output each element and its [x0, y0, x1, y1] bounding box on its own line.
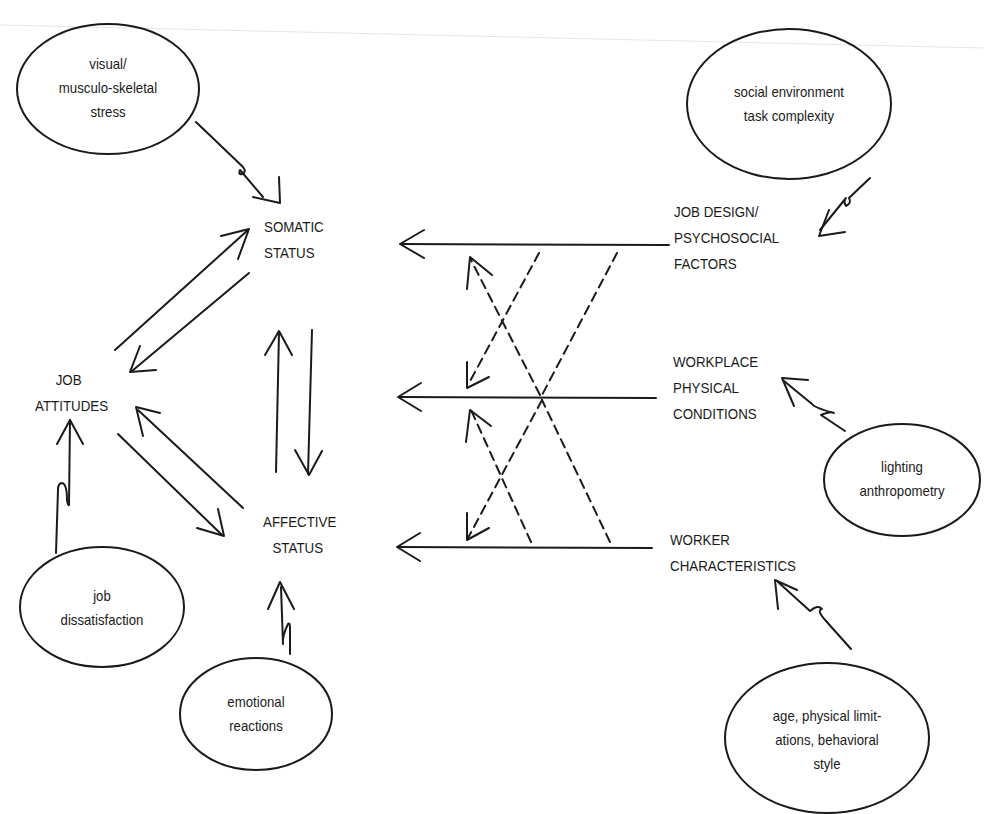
zigzag-arrow-dissatisfaction-to-attitudes: [56, 420, 83, 553]
dashed-arrowheads: [466, 257, 492, 540]
text-lighting: lighting anthropometry: [833, 455, 970, 503]
diagram-canvas: SOMATIC STATUS JOB ATTITUDES AFFECTIVE S…: [0, 0, 984, 814]
dashed-arrow-worker-to-attitudes: [471, 410, 531, 542]
social-line-1: social environment: [699, 80, 879, 104]
somatic-line-1: SOMATIC: [264, 214, 324, 240]
age-line-2: ations, behavioral: [737, 728, 917, 752]
arrow-somatic-to-attitudes: [130, 273, 249, 372]
arrow-attitudes-to-affective: [118, 434, 224, 536]
workplace-line-3: CONDITIONS: [673, 401, 758, 427]
dissatisfaction-line-1: job: [30, 584, 174, 608]
worker-line-1: WORKER: [670, 527, 796, 553]
node-workplace: WORKPLACE PHYSICAL CONDITIONS: [673, 349, 758, 427]
arrow-workplace-to-attitudes: [398, 383, 656, 411]
zigzag-arrow-age-to-worker: [775, 580, 851, 649]
social-line-2: task complexity: [699, 104, 879, 128]
dashed-line-worker-to-somatic: [542, 400, 610, 542]
jobdesign-line-2: PSYCHOSOCIAL: [674, 225, 779, 251]
emotional-line-1: emotional: [189, 690, 323, 714]
age-line-3: style: [737, 752, 917, 776]
visual-line-2: musculo-skeletal: [28, 76, 188, 100]
somatic-line-2: STATUS: [264, 240, 324, 266]
workplace-line-2: PHYSICAL: [673, 375, 758, 401]
jobdesign-line-3: FACTORS: [674, 251, 779, 277]
arrow-affective-to-attitudes: [136, 407, 243, 508]
node-affective-status: AFFECTIVE STATUS: [263, 509, 336, 561]
arrow-worker-to-affective: [397, 533, 652, 561]
dashed-arrow-workplace-to-somatic: [470, 258, 540, 395]
emotional-line-2: reactions: [189, 714, 323, 738]
dashed-arrow-workplace-to-affective: [468, 400, 542, 538]
jobdesign-line-1: JOB DESIGN/: [674, 199, 779, 225]
node-worker: WORKER CHARACTERISTICS: [670, 527, 796, 579]
node-somatic-status: SOMATIC STATUS: [264, 214, 324, 266]
text-age-limitations: age, physical limit- ations, behavioral …: [737, 704, 917, 776]
visual-line-3: stress: [28, 100, 188, 124]
arrow-somatic-to-affective: [295, 330, 322, 475]
text-job-dissatisfaction: job dissatisfaction: [30, 584, 174, 632]
visual-line-1: visual/: [28, 52, 188, 76]
dissatisfaction-line-2: dissatisfaction: [30, 608, 174, 632]
zigzag-arrow-lighting-to-workplace: [782, 378, 845, 431]
zigzag-arrow-emotional-to-affective: [268, 582, 294, 654]
attitudes-line-1: JOB: [35, 367, 108, 393]
lighting-line-2: anthropometry: [833, 479, 970, 503]
zigzag-arrow-visual-to-somatic: [196, 122, 280, 203]
text-emotional-reactions: emotional reactions: [189, 690, 323, 738]
arrow-affective-to-somatic: [265, 331, 292, 472]
node-job-attitudes: JOB ATTITUDES: [35, 367, 108, 419]
worker-line-2: CHARACTERISTICS: [670, 553, 796, 579]
age-line-1: age, physical limit-: [737, 704, 917, 728]
dashed-line-jobdesign-to-affective: [542, 253, 617, 395]
affective-line-2: STATUS: [263, 535, 336, 561]
text-social-environment: social environment task complexity: [699, 80, 879, 128]
text-visual-stress: visual/ musculo-skeletal stress: [28, 52, 188, 124]
arrow-jobdesign-to-somatic: [400, 230, 669, 258]
lighting-line-1: lighting: [833, 455, 970, 479]
affective-line-1: AFFECTIVE: [263, 509, 336, 535]
node-job-design: JOB DESIGN/ PSYCHOSOCIAL FACTORS: [674, 199, 779, 277]
scan-artifact: [0, 25, 984, 48]
workplace-line-1: WORKPLACE: [673, 349, 758, 375]
attitudes-line-2: ATTITUDES: [35, 393, 108, 419]
zigzag-arrow-social-to-jobdesign: [819, 178, 870, 236]
